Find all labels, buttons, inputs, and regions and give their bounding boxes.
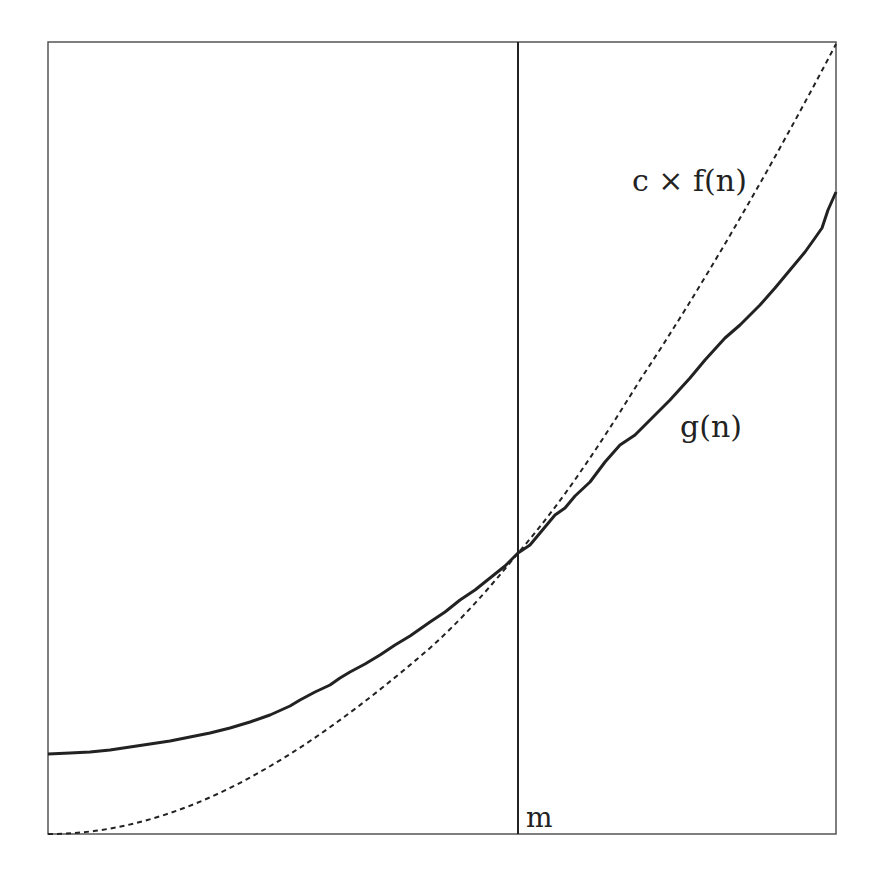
g-curve-label: g(n) [680,412,742,442]
diagram-canvas [0,0,876,873]
m-label: m [526,804,553,832]
big-o-diagram: c × f(n) g(n) m [0,0,876,873]
cf-curve-label: c × f(n) [632,166,747,196]
g-curve [48,192,836,754]
